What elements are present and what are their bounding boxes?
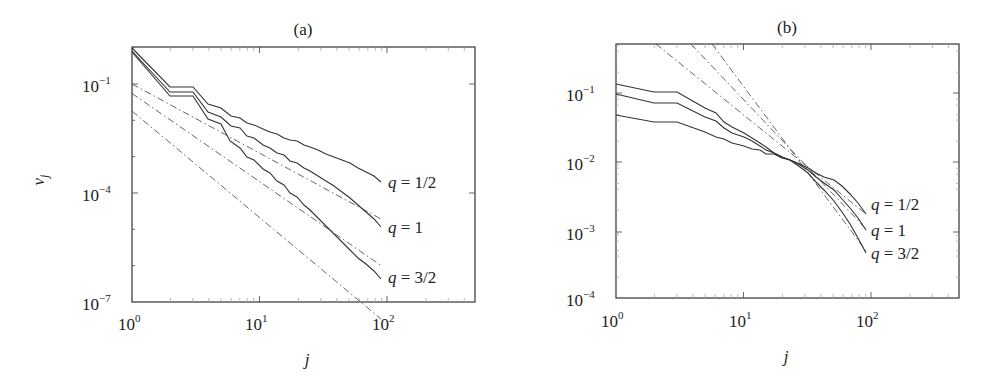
panel-a-y-axis-label: vj (29, 174, 51, 186)
x-tick-1e1: 101 (245, 312, 268, 334)
panel-b-x-axis-label: j (782, 347, 789, 366)
label-q-three-half: q = 3/2 (388, 268, 436, 287)
panel-a-title: (a) (294, 20, 313, 39)
panel-b-curve-labels: q = 1/2 q = 1 q = 3/2 (871, 195, 919, 263)
y-tick-1e-1: 10−1 (82, 74, 111, 96)
label-q-half: q = 1/2 (388, 173, 436, 192)
panel-a-fit-lines (132, 84, 381, 319)
y-tick-1e-3: 10−3 (566, 222, 595, 244)
panel-b-x-tick-labels: 100 101 102 (601, 309, 879, 331)
panel-b-title: (b) (777, 18, 797, 37)
curve-q-three-half (616, 84, 866, 253)
y-tick-1e-1: 10−1 (566, 83, 595, 105)
fit-line-q-three-half (132, 111, 381, 319)
curve-q-one (616, 94, 866, 230)
figure: (a) 10−1 10−4 10−7 100 101 102 j vj (0, 0, 992, 386)
fit-line-q-one (132, 94, 381, 266)
y-tick-1e-4: 10−4 (82, 183, 111, 205)
panel-a: (a) 10−1 10−4 10−7 100 101 102 j vj (29, 20, 475, 369)
x-tick-1e0: 100 (601, 309, 624, 331)
x-tick-1e2: 102 (372, 312, 395, 334)
panel-a-curves (132, 48, 381, 279)
panel-b: (b) 10−1 10−2 10−3 10−4 100 101 102 (566, 18, 959, 366)
panel-b-y-tick-labels: 10−1 10−2 10−3 10−4 (566, 83, 595, 310)
panel-b-fit-lines (656, 44, 866, 251)
label-q-one: q = 1 (388, 218, 423, 237)
fit-line-q-three-half (712, 44, 866, 251)
label-q-half: q = 1/2 (871, 195, 919, 214)
label-q-one: q = 1 (871, 221, 906, 240)
curve-q-one (132, 51, 381, 227)
panel-a-y-tick-labels: 10−1 10−4 10−7 (82, 74, 111, 314)
y-tick-1e-2: 10−2 (566, 152, 595, 174)
fit-line-q-half (132, 84, 381, 219)
x-tick-1e1: 101 (729, 309, 752, 331)
panel-b-curves (616, 84, 866, 253)
fit-line-q-half (656, 44, 866, 214)
y-tick-1e-7: 10−7 (82, 292, 111, 314)
panel-a-x-axis-label: j (303, 350, 310, 369)
label-q-three-half: q = 3/2 (871, 244, 919, 263)
y-tick-1e-4: 10−4 (566, 288, 595, 310)
fit-line-q-one (691, 44, 866, 229)
x-tick-1e2: 102 (856, 309, 879, 331)
panel-a-curve-labels: q = 1/2 q = 1 q = 3/2 (388, 173, 436, 287)
curve-q-half (616, 115, 866, 214)
panel-a-x-tick-labels: 100 101 102 (118, 312, 395, 334)
x-tick-1e0: 100 (118, 312, 141, 334)
panel-b-y-minor-ticks (616, 46, 959, 278)
